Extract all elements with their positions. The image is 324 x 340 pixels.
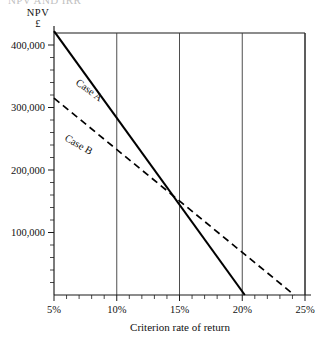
- npv-irr-chart-figure: NPV AND IRR: [0, 0, 324, 340]
- series-line-case-a: [54, 31, 245, 295]
- x-tick-label-10pct: 10%: [107, 304, 127, 315]
- y-tick-label-400000: 400,000: [11, 40, 45, 51]
- vertical-gridlines: [117, 33, 305, 295]
- series-label-case-b: Case B: [63, 132, 95, 157]
- x-axis-title: Criterion rate of return: [130, 321, 230, 333]
- clipped-page-header: NPV AND IRR: [8, 0, 81, 6]
- x-tick-label-5pct: 5%: [47, 304, 61, 315]
- y-axis-title: NPV: [27, 7, 50, 18]
- y-tick-label-200000: 200,000: [11, 165, 45, 176]
- chart-canvas: 100,000 200,000 300,000 400,000 NPV £ 5%…: [0, 0, 324, 340]
- x-tick-label-15pct: 15%: [170, 304, 190, 315]
- y-axis-unit: £: [35, 18, 41, 29]
- x-tick-label-25pct: 25%: [295, 304, 315, 315]
- x-tick-label-20pct: 20%: [233, 304, 253, 315]
- y-tick-label-100000: 100,000: [11, 227, 45, 238]
- y-axis-major-ticks: [48, 45, 54, 233]
- y-tick-label-300000: 300,000: [11, 102, 45, 113]
